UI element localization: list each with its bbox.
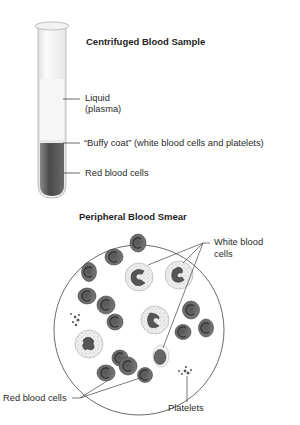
red-cells-layer-label: Red blood cells — [85, 168, 149, 179]
buffy-coat-label: “Buffy coat” (white blood cells and plat… — [84, 138, 264, 149]
rbc-label: Red blood cells — [3, 393, 67, 404]
wbc-label-line2: cells — [214, 249, 233, 260]
plasma-label-line1: Liquid — [85, 93, 110, 104]
smear-title: Peripheral Blood Smear — [79, 211, 187, 222]
wbc-label-line1: White blood — [214, 237, 263, 248]
test-tube — [35, 22, 69, 198]
plasma-label-line2: (plasma) — [85, 104, 121, 115]
tube-title: Centrifuged Blood Sample — [86, 36, 205, 47]
platelets-label: Platelets — [168, 403, 204, 414]
